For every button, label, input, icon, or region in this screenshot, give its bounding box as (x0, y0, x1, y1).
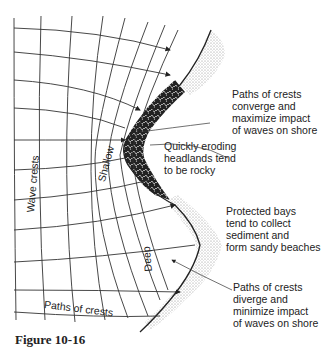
sandy-beach-upper (180, 30, 225, 95)
annotation-headlands: Quickly eroding headlands tend to be roc… (164, 140, 236, 176)
figure-caption: Figure 10-16 (15, 332, 85, 348)
annotation-converge: Paths of crests converge and maximize im… (232, 88, 317, 136)
label-deep: Deep (140, 246, 154, 272)
annotation-diverge: Paths of crests diverge and minimize imp… (233, 281, 318, 329)
annotation-bays: Protected bays tend to collect sediment … (226, 205, 321, 253)
